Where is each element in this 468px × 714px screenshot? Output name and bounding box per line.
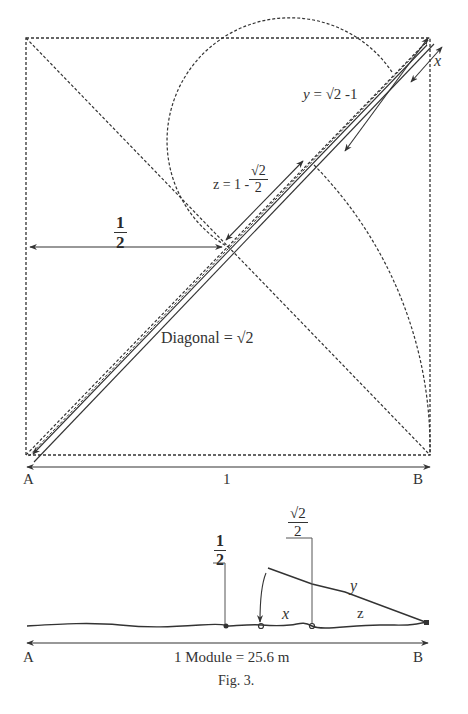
point-b-top: B xyxy=(413,471,423,488)
z-label-prefix: z = 1 - xyxy=(213,177,249,193)
sqrt2-half-leader xyxy=(286,538,312,624)
diagonal-label: Diagonal = √2 xyxy=(161,329,253,347)
swing-arrow xyxy=(260,573,266,622)
unit-arc xyxy=(314,165,430,455)
y-line xyxy=(268,568,428,623)
bottom-x-label: x xyxy=(282,605,289,623)
point-a-top: A xyxy=(23,471,34,488)
figure-drawing xyxy=(0,0,468,714)
bottom-y-label: y xyxy=(350,577,357,595)
stake-half xyxy=(224,624,229,629)
z-label-fraction: √2 2 xyxy=(249,164,268,195)
bottom-sqrt2-half-label: √2 2 xyxy=(288,506,308,539)
point-a-bottom: A xyxy=(23,649,34,666)
diagonal-parallel-dashed xyxy=(28,43,426,457)
x-label: x xyxy=(434,52,441,70)
figure-caption: Fig. 3. xyxy=(218,673,254,689)
point-b-bottom: B xyxy=(413,649,423,666)
side-length-label: 1 xyxy=(223,471,231,488)
bottom-half-label: 1 2 xyxy=(214,533,226,568)
bottom-z-label: z xyxy=(357,605,364,622)
diagonal-parallel-solid xyxy=(34,44,434,462)
stake-b xyxy=(424,620,429,625)
module-label: 1 Module = 25.6 m xyxy=(174,649,290,666)
half-label: 1 2 xyxy=(114,214,127,251)
y-label: y = √2 -1 xyxy=(303,86,358,103)
half-leader xyxy=(213,563,225,624)
